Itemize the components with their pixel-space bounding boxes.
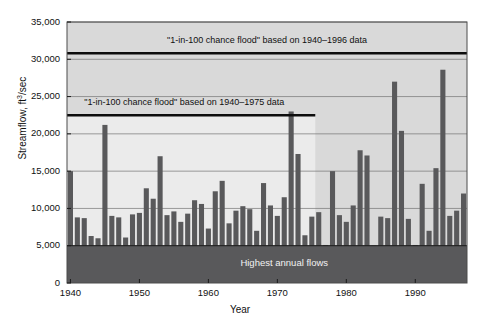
- x-tick-label: 1990: [390, 287, 440, 298]
- y-tick-label: 0: [2, 277, 60, 288]
- flood-line-1940-1975-label: "1-in-100 chance flood" based on 1940–19…: [84, 97, 284, 107]
- x-tick-label: 1980: [321, 287, 371, 298]
- y-tick-label: 30,000: [2, 53, 60, 64]
- y-tick-label: 10,000: [2, 202, 60, 213]
- streamflow-chart: [0, 0, 480, 329]
- y-tick-label: 25,000: [2, 90, 60, 101]
- plot-area: [67, 22, 467, 283]
- y-tick-label: 35,000: [2, 16, 60, 27]
- x-tick-label: 1940: [45, 287, 95, 298]
- y-tick-label: 5,000: [2, 239, 60, 250]
- y-axis-label: Streamflow, ft3/sec: [16, 63, 28, 173]
- x-tick-label: 1960: [183, 287, 233, 298]
- x-tick-label: 1950: [114, 287, 164, 298]
- x-axis-label-text: Year: [230, 304, 250, 315]
- x-tick-label: 1970: [252, 287, 302, 298]
- y-tick-label: 15,000: [2, 165, 60, 176]
- flood-line-1940-1996-label: "1-in-100 chance flood" based on 1940–19…: [167, 35, 367, 45]
- y-tick-label: 20,000: [2, 127, 60, 138]
- highest-annual-flows-band-label: Highest annual flows: [240, 257, 328, 268]
- x-axis-label: Year: [0, 304, 480, 315]
